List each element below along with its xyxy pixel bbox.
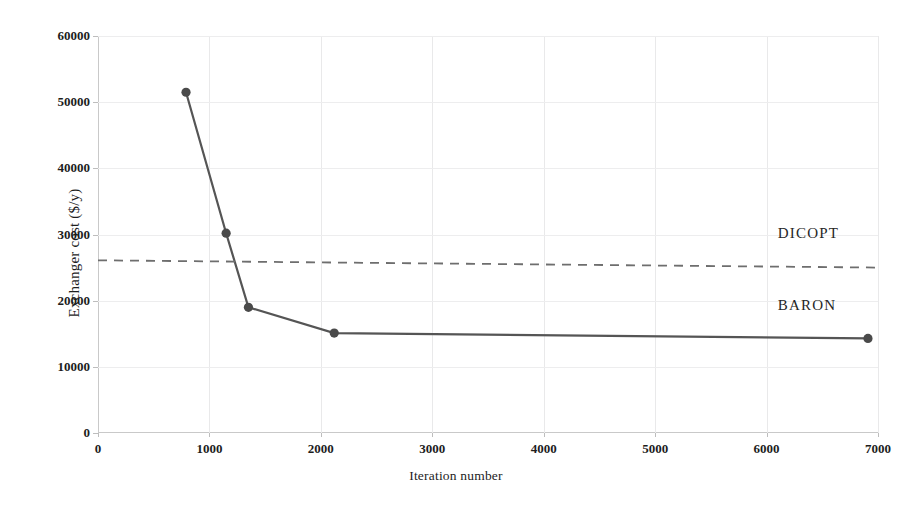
y-tick-label: 10000 [20, 359, 90, 375]
data-point-marker [181, 88, 190, 97]
x-tick-mark [432, 433, 433, 437]
x-tick-mark [98, 433, 99, 437]
x-tick-label: 3000 [397, 441, 467, 457]
data-point-marker [222, 229, 231, 238]
x-tick-mark [321, 433, 322, 437]
y-tick-label: 40000 [20, 160, 90, 176]
x-tick-mark [767, 433, 768, 437]
series-line-dicopt [98, 260, 878, 267]
x-tick-label: 5000 [620, 441, 690, 457]
x-tick-label: 7000 [843, 441, 912, 457]
series-label-baron: BARON [778, 297, 837, 314]
series-label-dicopt: DICOPT [778, 225, 839, 242]
x-axis-title: Iteration number [0, 468, 912, 484]
x-tick-mark [655, 433, 656, 437]
x-tick-label: 6000 [732, 441, 802, 457]
y-axis-title: Exchanger cost ($/y) [66, 188, 83, 317]
series-layer [98, 36, 878, 433]
top-caption-fragment [180, 0, 700, 10]
y-tick-label: 50000 [20, 94, 90, 110]
gridline-vertical [878, 36, 879, 433]
x-tick-mark [878, 433, 879, 437]
x-tick-label: 1000 [174, 441, 244, 457]
x-tick-label: 0 [63, 441, 133, 457]
x-tick-label: 4000 [509, 441, 579, 457]
x-tick-label: 2000 [286, 441, 356, 457]
x-tick-mark [209, 433, 210, 437]
x-tick-mark [544, 433, 545, 437]
plot-area: 0100002000030000400005000060000 01000200… [98, 36, 878, 433]
y-tick-label: 0 [20, 425, 90, 441]
data-point-marker [244, 303, 253, 312]
data-point-marker [330, 328, 339, 337]
chart-figure: 0100002000030000400005000060000 01000200… [0, 0, 912, 505]
series-line-baron [186, 92, 868, 338]
y-tick-label: 60000 [20, 28, 90, 44]
data-point-marker [863, 334, 872, 343]
